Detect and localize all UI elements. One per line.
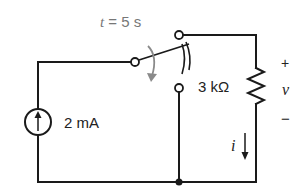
switch-time-var: t [100, 14, 104, 30]
current-indicator [242, 133, 249, 160]
resistor-value-label: 3 kΩ [198, 79, 229, 94]
circuit-diagram [0, 0, 301, 195]
arrow-down-icon [242, 152, 249, 160]
wire-top-right [183, 35, 256, 68]
switch-time-value: 5 s [121, 13, 141, 30]
switch-time-eq: = [108, 13, 117, 30]
curved-arrow-icon [147, 73, 157, 82]
switch-blade [139, 44, 189, 60]
voltage-minus-label: − [281, 111, 290, 126]
switch-terminal-top [175, 31, 183, 39]
switch-motion-arc [148, 46, 154, 76]
switch-contact-arc-2 [186, 42, 190, 70]
current-source [25, 109, 51, 135]
junction-node [176, 179, 183, 186]
switch-time-label: t = 5 s [100, 14, 141, 30]
switch [131, 31, 190, 92]
switch-contact-arc-1 [182, 44, 185, 74]
current-var-label: i [231, 138, 235, 154]
switch-terminal-bottom [175, 84, 183, 92]
source-value-label: 2 mA [64, 115, 99, 130]
voltage-var-label: v [282, 82, 289, 98]
switch-terminal-left [131, 58, 139, 66]
resistor-symbol [248, 68, 264, 104]
voltage-plus-label: + [281, 56, 289, 70]
